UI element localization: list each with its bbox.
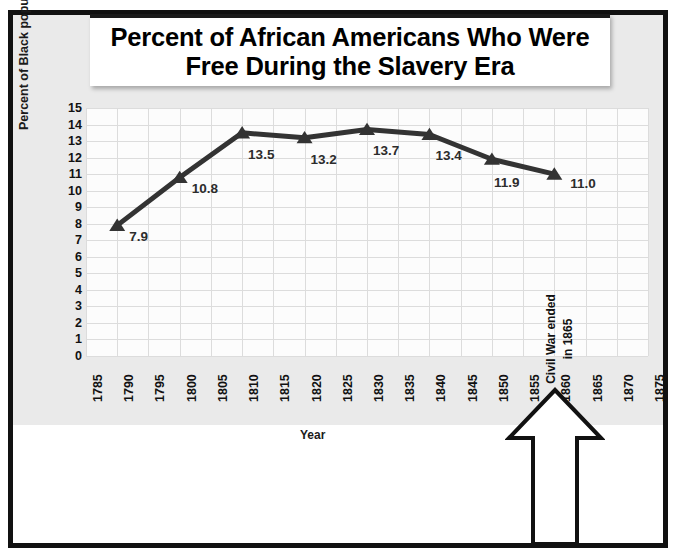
chart-title-line-2: Free During the Slavery Era bbox=[185, 52, 514, 80]
gridline-vertical bbox=[648, 108, 649, 356]
x-tick-label: 1800 bbox=[185, 374, 199, 402]
x-tick-label: 1845 bbox=[466, 374, 480, 402]
y-tick-label: 5 bbox=[56, 266, 82, 280]
y-tick-label: 8 bbox=[56, 217, 82, 231]
annotation-line-1: Civil War ended bbox=[544, 294, 558, 384]
chart-title-box: Percent of African Americans Who Were Fr… bbox=[90, 14, 610, 86]
y-tick-label: 1 bbox=[56, 332, 82, 346]
chart-title-line-1: Percent of African Americans Who Were bbox=[110, 23, 589, 51]
data-point-label: 10.8 bbox=[192, 181, 218, 196]
data-point-label: 13.7 bbox=[373, 143, 399, 158]
x-tick-label: 1805 bbox=[216, 374, 230, 402]
y-tick-label: 0 bbox=[56, 349, 82, 363]
y-tick-label: 2 bbox=[56, 316, 82, 330]
data-point-label: 11.9 bbox=[494, 175, 520, 190]
y-tick-label: 15 bbox=[56, 101, 82, 115]
x-tick-label: 1810 bbox=[247, 374, 261, 402]
y-tick-label: 11 bbox=[56, 167, 82, 181]
x-tick-label: 1790 bbox=[122, 374, 136, 402]
data-point-label: 13.4 bbox=[435, 148, 461, 163]
data-point-label: 7.9 bbox=[129, 229, 148, 244]
x-tick-label: 1815 bbox=[278, 374, 292, 402]
annotation-line-2: in 1865 bbox=[561, 319, 575, 360]
y-tick-label: 7 bbox=[56, 233, 82, 247]
y-tick-label: 13 bbox=[56, 134, 82, 148]
data-point-label: 11.0 bbox=[570, 176, 596, 191]
x-tick-label: 1830 bbox=[372, 374, 386, 402]
y-axis-tick-labels: 1514131211109876543210 bbox=[52, 108, 82, 356]
x-tick-label: 1825 bbox=[341, 374, 355, 402]
data-point-label: 13.5 bbox=[248, 147, 274, 162]
x-tick-label: 1870 bbox=[622, 374, 636, 402]
y-tick-label: 6 bbox=[56, 250, 82, 264]
y-tick-label: 14 bbox=[56, 118, 82, 132]
y-axis-title: Percent of Black population bbox=[17, 0, 37, 130]
data-point-label: 13.2 bbox=[311, 152, 337, 167]
y-tick-label: 9 bbox=[56, 200, 82, 214]
x-tick-label: 1840 bbox=[434, 374, 448, 402]
civil-war-annotation: Civil War ended in 1865 bbox=[505, 386, 605, 546]
x-tick-label: 1785 bbox=[91, 374, 105, 402]
civil-war-annotation-label: Civil War ended in 1865 bbox=[543, 274, 578, 404]
y-tick-label: 12 bbox=[56, 151, 82, 165]
y-tick-label: 4 bbox=[56, 283, 82, 297]
x-tick-label: 1795 bbox=[153, 374, 167, 402]
x-tick-label: 1875 bbox=[653, 374, 667, 402]
x-tick-label: 1835 bbox=[403, 374, 417, 402]
up-arrow-icon bbox=[505, 386, 605, 546]
chart-title: Percent of African Americans Who Were Fr… bbox=[104, 23, 595, 82]
chart-image: Percent of African Americans Who Were Fr… bbox=[0, 0, 678, 557]
x-axis-title: Year bbox=[300, 428, 325, 442]
y-tick-label: 3 bbox=[56, 299, 82, 313]
y-tick-label: 10 bbox=[56, 184, 82, 198]
x-tick-label: 1820 bbox=[310, 374, 324, 402]
